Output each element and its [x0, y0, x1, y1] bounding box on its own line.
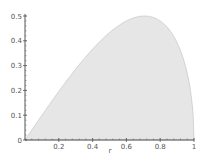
- y-tick-label: 0.4: [11, 37, 23, 45]
- x-tick-label: 0.2: [53, 143, 64, 151]
- area-fill: [25, 16, 194, 140]
- y-tick-label: 0.1: [11, 112, 22, 120]
- y-tick-label: 0.3: [11, 62, 22, 70]
- x-tick-label: 1: [192, 143, 196, 151]
- x-tick-label: 0.6: [121, 143, 133, 151]
- x-tick-label: 0.4: [87, 143, 99, 151]
- x-axis-label: r: [109, 147, 112, 155]
- y-tick-label: 0: [18, 137, 22, 145]
- y-tick-label: 0.5: [11, 13, 22, 21]
- y-tick-label: 0.2: [11, 87, 22, 95]
- x-tick-label: 0.8: [155, 143, 166, 151]
- area-chart: 00.10.20.30.40.50.20.40.60.81 r: [0, 0, 209, 162]
